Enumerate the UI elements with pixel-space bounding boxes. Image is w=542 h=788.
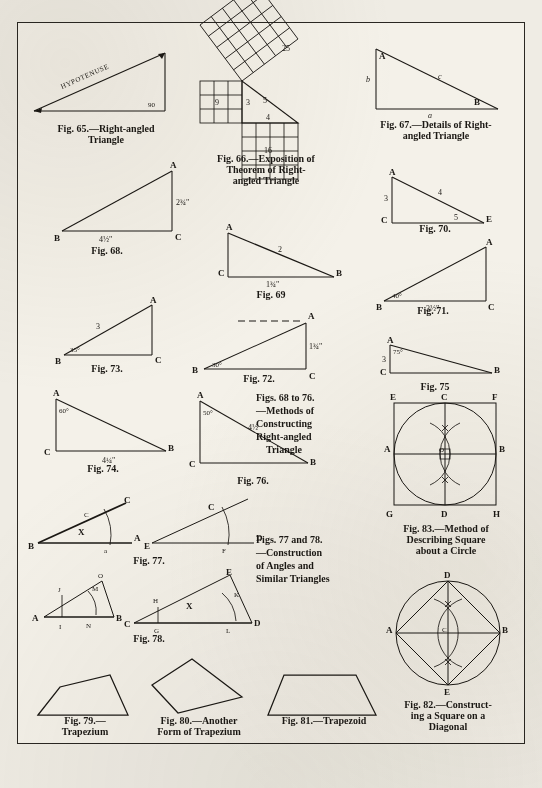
text-block-figs-68-to-76: Figs. 68 to 76. —Methods of Constructing… — [256, 391, 376, 456]
block-68-76-line4: Right-angled — [256, 430, 376, 443]
figure-82: A B C D E — [386, 571, 510, 695]
fig77-left-a: A — [134, 533, 141, 543]
fig74-vertex-c: C — [44, 447, 51, 457]
fig79-caption-line2: Trapezium — [30, 726, 140, 737]
fig74-caption: Fig. 74. — [58, 463, 148, 474]
fig76-angle-label: 50° — [203, 409, 213, 417]
fig78-vertex-j: J — [58, 586, 61, 594]
figure-72: A B C 30° 1¾" — [190, 307, 330, 383]
fig67-side-c: c — [438, 72, 442, 81]
fig74-vertex-a: A — [53, 388, 60, 398]
figure-73: A B C 35° 3 — [54, 293, 184, 369]
fig76-vertex-a: A — [197, 390, 204, 400]
fig77-right-c: C — [208, 502, 215, 512]
fig73-vertex-c: C — [155, 355, 162, 365]
fig66-caption-line1: Fig. 66.—Exposition of — [176, 153, 356, 164]
figure-77: B C C A a X E C D F — [26, 497, 266, 559]
figure-76-caption: Fig. 76. — [208, 475, 298, 486]
fig67-caption-line2: angled Triangle — [348, 130, 524, 141]
fig82-vertex-e: E — [444, 687, 450, 697]
block-77-78-line1: Figs. 77 and 78. — [256, 533, 380, 546]
fig82-vertex-d: D — [444, 570, 451, 580]
fig67-side-b: b — [366, 75, 370, 84]
fig70-vertex-e: E — [486, 214, 492, 224]
fig73-caption: Fig. 73. — [62, 363, 152, 374]
fig73-vertex-b: B — [55, 356, 61, 366]
fig78-vertex-h: H — [153, 597, 158, 605]
figure-69-caption: Fig. 69 — [226, 289, 316, 300]
fig69-vertex-a: A — [226, 222, 233, 232]
block-68-76-line2: —Methods of — [256, 404, 376, 417]
fig70-side-hyp: 4 — [438, 188, 442, 197]
fig82-caption-line3: Diagonal — [370, 721, 526, 732]
block-68-76-line1: Figs. 68 to 76. — [256, 391, 376, 404]
fig68-caption: Fig. 68. — [62, 245, 152, 256]
fig78-vertex-x: X — [186, 601, 193, 611]
fig69-base-label: 1¾" — [266, 280, 279, 289]
figure-69: A B C 2 1¾" — [216, 219, 346, 291]
fig74-vertex-b: B — [168, 443, 174, 453]
figure-79 — [32, 663, 142, 721]
fig65-hypotenuse-label: HYPOTENUSE — [60, 62, 111, 90]
fig67-caption-line1: Fig. 67.—Details of Right- — [348, 119, 524, 130]
fig67-vertex-a: A — [379, 51, 386, 61]
figure-66: 9 16 25 3 4 5 — [178, 23, 358, 163]
fig75-vertex-b: B — [494, 365, 500, 375]
figure-67-caption: Fig. 67.—Details of Right- angled Triang… — [348, 119, 524, 141]
fig78-caption: Fig. 78. — [104, 633, 194, 644]
fig80-caption-line2: Form of Trapezium — [136, 726, 262, 737]
fig78-vertex-c: C — [124, 619, 131, 629]
fig83-caption-line3: about a Circle — [370, 545, 522, 556]
fig76-caption: Fig. 76. — [208, 475, 298, 486]
figure-67: A B b a c — [358, 37, 508, 119]
fig72-vertex-c: C — [309, 371, 316, 381]
figure-66-caption: Fig. 66.—Exposition of Theorem of Right-… — [176, 153, 356, 187]
plate-page: 90 HYPOTENUSE Fig. 65.—Right-angled Tria… — [0, 0, 542, 788]
fig73-vertex-a: A — [150, 295, 157, 305]
figure-83: E C F A O B G D H — [380, 391, 510, 519]
fig77-left-b: B — [28, 541, 34, 551]
fig75-vertex-a: A — [387, 335, 394, 345]
fig82-center-c: C — [442, 626, 447, 634]
fig65-caption-line1: Fig. 65.—Right-angled — [26, 123, 186, 134]
fig78-vertex-i: I — [59, 623, 62, 631]
figure-80-caption: Fig. 80.—Another Form of Trapezium — [136, 715, 262, 737]
fig80-caption-line1: Fig. 80.—Another — [136, 715, 262, 726]
fig83-vertex-e: E — [390, 392, 396, 402]
figure-80 — [144, 655, 254, 719]
fig78-vertex-m: M — [92, 585, 99, 593]
fig70-caption: Fig. 70. — [390, 223, 480, 234]
fig66-caption-line3: angled Triangle — [176, 175, 356, 186]
fig66-side-b-label: 4 — [266, 113, 270, 122]
plate-border: 90 HYPOTENUSE Fig. 65.—Right-angled Tria… — [17, 22, 525, 744]
fig68-vertex-b: B — [54, 233, 60, 243]
fig76-vertex-c: C — [189, 459, 196, 469]
fig68-vertex-a: A — [170, 160, 177, 170]
fig82-caption-line2: ing a Square on a — [370, 710, 526, 721]
fig77-left-a-small: a — [104, 547, 108, 555]
fig74-angle-label: 60° — [59, 407, 69, 415]
fig83-vertex-f: F — [492, 392, 498, 402]
fig81-caption: Fig. 81.—Trapezoid — [258, 715, 390, 726]
figure-65-caption: Fig. 65.—Right-angled Triangle — [26, 123, 186, 145]
fig72-caption: Fig. 72. — [214, 373, 304, 384]
fig83-vertex-d: D — [441, 509, 448, 519]
fig78-vertex-l: L — [226, 627, 230, 635]
figure-68-caption: Fig. 68. — [62, 245, 152, 256]
fig78-vertex-k: K — [234, 591, 239, 599]
fig76-vertex-b: B — [310, 457, 316, 467]
fig77-right-e: E — [144, 541, 150, 551]
fig71-vertex-a: A — [486, 237, 493, 247]
figure-65: 90 HYPOTENUSE — [28, 39, 178, 117]
fig79-caption-line1: Fig. 79.— — [30, 715, 140, 726]
fig77-left-c-inner: C — [84, 511, 89, 519]
fig70-vertex-c: C — [381, 215, 388, 225]
fig83-vertex-g: G — [386, 509, 393, 519]
figure-78: A J I O M N B C H G L D K E X — [26, 571, 266, 637]
fig65-caption-line2: Triangle — [26, 134, 186, 145]
fig77-caption: Fig. 77. — [104, 555, 194, 566]
fig78-vertex-d: D — [254, 618, 261, 628]
fig66-square-a-label: 9 — [215, 98, 219, 107]
fig75-angle-label: 75° — [393, 348, 403, 356]
figure-81 — [264, 667, 382, 721]
